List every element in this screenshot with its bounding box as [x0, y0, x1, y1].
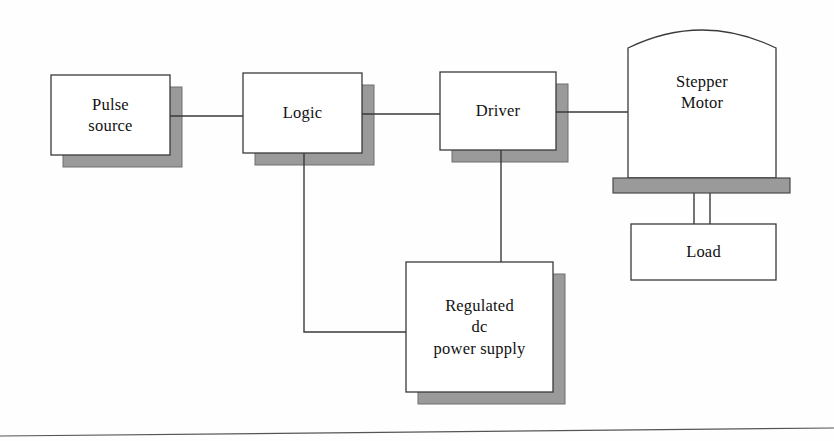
motor-base-bar — [613, 178, 790, 193]
pulse-source-box[interactable] — [51, 75, 170, 155]
diagram-canvas — [0, 0, 834, 441]
page-bottom-rule — [0, 428, 834, 436]
block-diagram-figure: Pulse source Logic Driver Stepper Motor … — [0, 0, 834, 441]
driver-box[interactable] — [440, 72, 556, 150]
box-layer — [51, 30, 790, 392]
connector-logic-to-power-supply — [304, 153, 407, 332]
regulated-dc-power-supply-box[interactable] — [406, 262, 553, 392]
load-box[interactable] — [631, 224, 776, 280]
stepper-motor-body[interactable] — [628, 30, 776, 178]
logic-box[interactable] — [243, 73, 362, 153]
